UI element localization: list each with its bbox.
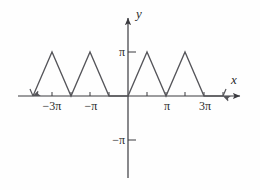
y-axis-label: y [136,6,142,22]
curve-tip-left [30,89,33,96]
x-axis-label: x [231,72,237,88]
plot-canvas [0,0,260,190]
x-tick-label-neg3pi: −3π [43,99,62,114]
y-axis [128,18,136,178]
y-tick-label-negpi: −π [112,133,125,148]
x-tick-label-pi: π [164,99,170,114]
y-tick-label-pi: π [119,45,125,60]
x-tick-label-3pi: 3π [199,99,211,114]
figure-container: x y −3π −π π 3π π −π [0,0,260,190]
x-tick-label-negpi: −π [85,99,98,114]
